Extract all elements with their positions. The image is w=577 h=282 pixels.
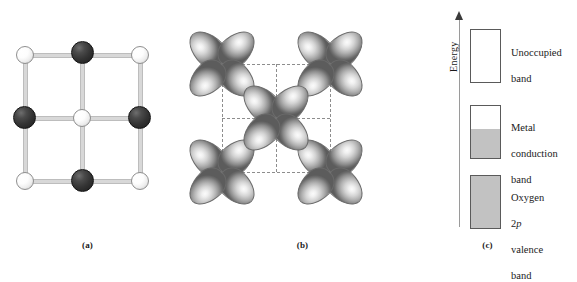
unoccupied-band-label: Unoccupied band [511, 33, 562, 85]
energy-axis-arrowhead [455, 11, 463, 20]
orbital-diagram [175, 0, 430, 230]
metal-conduction-band-box [470, 105, 501, 159]
lattice-atom-white [73, 109, 91, 127]
energy-axis-line [459, 20, 460, 227]
unoccupied-band-box [470, 29, 501, 83]
oxygen-label-line4: band [511, 270, 531, 281]
panel-a-crystal-lattice: (a) [0, 0, 175, 267]
panel-c-energy-band-diagram: Energy Unoccupied band Metal conduction … [430, 0, 577, 267]
energy-axis-label: Energy [448, 42, 459, 73]
panel-c-caption: (c) [414, 240, 561, 250]
oxygen-label-line1: Oxygen [511, 192, 544, 203]
oxygen-2p-valence-band-label: Oxygen 2p valence band [511, 178, 544, 282]
oxygen-2p-valence-band-box [470, 175, 501, 229]
metal-conduction-band-fill [471, 129, 500, 158]
unoccupied-band-label-line2: band [511, 73, 531, 84]
metal-conduction-label-line2: conduction [511, 148, 558, 159]
lattice-atom-dark [128, 106, 151, 129]
lattice-atom-white [16, 46, 34, 64]
unoccupied-band-label-line1: Unoccupied [511, 47, 562, 58]
panel-b-orbital-overlap: (b) [175, 0, 430, 267]
lattice-diagram [0, 0, 175, 230]
metal-conduction-band-label: Metal conduction band [511, 108, 558, 186]
lattice-atom-white [131, 46, 149, 64]
panel-b-caption: (b) [175, 240, 430, 250]
metal-conduction-label-line1: Metal [511, 122, 536, 133]
lattice-atom-dark [71, 41, 94, 64]
panel-a-caption: (a) [0, 240, 175, 250]
lattice-atom-dark [71, 169, 94, 192]
lattice-atom-white [16, 172, 34, 190]
lattice-atom-dark [13, 106, 36, 129]
oxygen-label-line2-orbital: p [516, 218, 521, 229]
lattice-atom-white [131, 172, 149, 190]
oxygen-2p-valence-band-fill [471, 176, 500, 228]
